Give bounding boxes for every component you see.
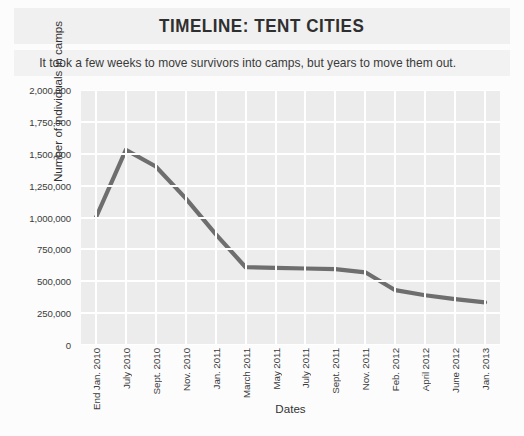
gridline-vertical — [334, 90, 336, 345]
gridline-vertical — [185, 90, 187, 345]
y-axis-tick-label: 1,750,000 — [29, 116, 71, 127]
x-axis-tick-label: July 2010 — [121, 348, 132, 389]
gridline-vertical — [95, 90, 97, 345]
y-axis-tick-label: 1,500,000 — [29, 148, 71, 159]
gridline-horizontal — [81, 248, 500, 250]
x-axis-tick-label: Feb. 2012 — [390, 348, 401, 391]
gridline-vertical — [454, 90, 456, 345]
gridline-horizontal — [81, 280, 500, 282]
gridline-vertical — [484, 90, 486, 345]
x-axis-tick-label: May 2011 — [271, 348, 282, 390]
x-axis-tick-label: April 2012 — [420, 348, 431, 391]
x-axis-tick-label: March 2011 — [241, 348, 252, 398]
gridline-horizontal — [81, 90, 500, 91]
plot-area — [81, 90, 500, 345]
x-axis-tick-label: Jan. 2013 — [480, 348, 491, 390]
gridline-vertical — [245, 90, 247, 345]
y-axis-tick-labels: 2,000,0001,750,0001,500,0001,250,0001,00… — [0, 90, 76, 345]
y-axis-tick-label: 0 — [66, 340, 71, 351]
chart-title: TIMELINE: TENT CITIES — [159, 15, 364, 37]
gridline-horizontal — [81, 121, 500, 123]
x-axis-tick-label: Jan. 2011 — [211, 348, 222, 389]
x-axis-tick-label: Nov. 2010 — [181, 348, 192, 391]
y-axis-tick-label: 500,000 — [37, 276, 71, 287]
gridline-vertical — [155, 90, 157, 345]
y-axis-tick-label: 1,250,000 — [29, 180, 71, 191]
gridline-horizontal — [81, 185, 500, 187]
gridline-vertical — [304, 90, 306, 345]
gridline-vertical — [424, 90, 426, 345]
gridline-horizontal — [81, 217, 500, 219]
chart-figure: TIMELINE: TENT CITIES It took a few week… — [0, 0, 524, 436]
plot-region — [81, 90, 500, 345]
x-axis-tick-label: Sept. 2010 — [151, 348, 162, 394]
gridline-vertical — [394, 90, 396, 345]
gridline-horizontal — [81, 153, 500, 155]
gridline-horizontal — [81, 344, 500, 345]
chart-subtitle: It took a few weeks to move survivors in… — [14, 56, 456, 70]
subtitle-band: It took a few weeks to move survivors in… — [14, 50, 510, 76]
x-axis-title: Dates — [81, 402, 500, 415]
x-axis-tick-label: End Jan. 2010 — [91, 348, 102, 410]
gridline-horizontal — [81, 312, 500, 314]
y-axis-tick-label: 750,000 — [37, 244, 71, 255]
y-axis-tick-label: 2,000,000 — [29, 85, 71, 96]
gridline-vertical — [125, 90, 127, 345]
x-axis-tick-label: July 2011 — [300, 348, 311, 388]
y-axis-tick-label: 1,000,000 — [29, 212, 71, 223]
gridline-vertical — [275, 90, 277, 345]
gridline-vertical — [364, 90, 366, 345]
x-axis-tick-label: Nov. 2011 — [360, 348, 371, 390]
x-axis-tick-label: Sept. 2011 — [330, 348, 341, 394]
title-band: TIMELINE: TENT CITIES — [14, 8, 510, 44]
x-axis-tick-label: June 2012 — [450, 348, 461, 393]
y-axis-tick-label: 250,000 — [37, 308, 71, 319]
gridline-vertical — [215, 90, 217, 345]
